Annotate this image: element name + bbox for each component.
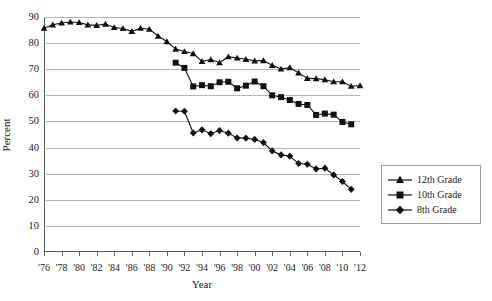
x-tick-mark [184,252,185,256]
triangle-data-point [163,38,170,44]
square-data-point [234,85,240,91]
triangle-data-point [207,56,214,62]
diamond-data-point [172,107,179,114]
legend-label: 12th Grade [417,175,462,185]
y-tick-label: 90 [29,12,40,23]
y-tick-label: 50 [29,116,40,127]
square-data-point [225,79,231,85]
square-data-point [208,83,214,89]
x-tick-label: '04 [284,263,296,273]
x-tick-mark [132,252,133,256]
square-data-point [190,83,196,89]
x-tick-label: '98 [231,263,243,273]
legend-item-12th-grade[interactable]: 12th Grade [387,172,476,187]
series-12th-grade [41,19,364,89]
square-data-point [269,92,275,98]
plot-area: 0102030405060708090 '76'78'80'82'84'86'8… [44,17,360,252]
series-line [176,111,352,189]
x-tick-label: '02 [266,263,278,273]
x-tick-mark [202,252,203,256]
square-marker-icon [387,189,413,201]
series-10th-grade [173,60,355,128]
square-data-point [331,112,337,118]
diamond-marker-icon [387,204,413,216]
triangle-data-point [225,53,232,59]
x-axis-ticks: '76'78'80'82'84'86'88'90'92'94'96'98'00'… [44,252,360,282]
diamond-data-point [313,165,320,172]
x-tick-label: '00 [249,263,261,273]
x-tick-label: '78 [56,263,68,273]
x-tick-label: '86 [126,263,138,273]
triangle-data-point [295,70,302,76]
x-tick-label: '92 [179,263,191,273]
chart-legend: 12th Grade 10th Grade 8th Grade [381,165,481,224]
x-tick-mark [149,252,150,256]
y-tick-label: 30 [29,168,40,179]
square-data-point [260,83,266,89]
x-tick-label: '88 [143,263,155,273]
square-data-point [296,101,302,107]
x-tick-mark [237,252,238,256]
diamond-data-point [207,130,214,137]
square-data-point [339,119,345,125]
x-tick-mark [307,252,308,256]
diamond-data-point [251,136,258,143]
y-tick-label: 60 [29,90,40,101]
x-tick-label: '94 [196,263,208,273]
diamond-data-point [242,135,249,142]
x-tick-mark [290,252,291,256]
x-tick-label: '80 [73,263,85,273]
x-tick-label: '10 [337,263,349,273]
y-tick-label: 20 [29,195,40,206]
square-data-point [304,102,310,108]
y-tick-label: 40 [29,142,40,153]
x-tick-mark [114,252,115,256]
diamond-data-point [278,151,285,158]
square-data-point [278,94,284,100]
x-tick-mark [360,252,361,256]
y-tick-label: 70 [29,64,40,75]
diamond-data-point [181,108,188,115]
diamond-data-point [225,130,232,137]
square-data-point [181,65,187,71]
square-data-point [313,112,319,118]
triangle-marker-icon [387,174,413,186]
chart-page: Percent Year 0102030405060708090 '76'78'… [0,0,492,301]
square-data-point [217,79,223,85]
square-data-point [173,60,179,66]
x-tick-mark [44,252,45,256]
triangle-data-point [269,62,276,68]
square-data-point [243,83,249,89]
triangle-data-point [102,21,109,27]
diamond-data-point [234,134,241,141]
square-data-point [322,111,328,117]
x-tick-label: '08 [319,263,331,273]
x-tick-mark [167,252,168,256]
y-axis-label: Percent [0,119,12,152]
triangle-data-point [286,64,293,70]
x-tick-label: '96 [214,263,226,273]
x-tick-label: '84 [108,263,120,273]
square-data-point [199,82,205,88]
diamond-data-point [190,129,197,136]
x-tick-mark [325,252,326,256]
x-tick-mark [79,252,80,256]
y-tick-label: 80 [29,38,40,49]
diamond-data-point [216,127,223,134]
legend-label: 8th Grade [417,205,457,215]
diamond-data-point [304,161,311,168]
x-tick-mark [220,252,221,256]
square-data-point [348,121,354,127]
square-data-point [252,78,258,84]
legend-item-8th-grade[interactable]: 8th Grade [387,202,476,217]
square-data-point [287,97,293,103]
x-tick-label: '82 [91,263,103,273]
x-tick-mark [272,252,273,256]
y-tick-label: 10 [29,221,40,232]
legend-item-10th-grade[interactable]: 10th Grade [387,187,476,202]
x-tick-label: '76 [38,263,50,273]
y-tick-label: 0 [34,247,39,258]
triangle-data-point [137,25,144,31]
legend-label: 10th Grade [417,190,462,200]
series-line [44,22,360,86]
